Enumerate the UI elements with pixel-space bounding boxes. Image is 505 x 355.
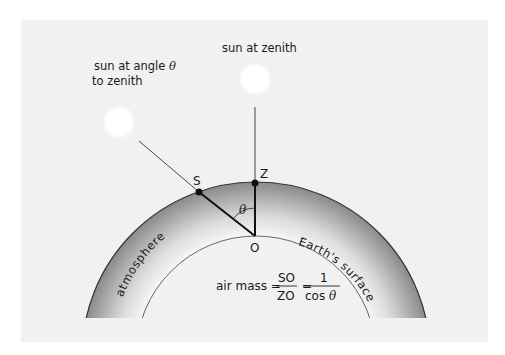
formula-den-zo: ZO bbox=[277, 289, 295, 303]
label-o: O bbox=[250, 241, 259, 255]
air-mass-formula: air mass = SO ZO = 1 cos θ bbox=[216, 271, 340, 303]
label-theta: θ bbox=[239, 203, 247, 217]
formula-prefix: air mass = bbox=[216, 279, 281, 293]
sun-angled-icon bbox=[102, 105, 136, 139]
caption-sun-angle-line1: sun at angle θ bbox=[94, 59, 176, 73]
caption-sun-zenith: sun at zenith bbox=[222, 41, 297, 55]
caption-sun-angle-line2: to zenith bbox=[92, 74, 143, 88]
air-mass-diagram: S Z O θ sun at angle θ to zenith sun at … bbox=[0, 0, 505, 355]
angled-ray-line bbox=[139, 141, 199, 192]
formula-num-so: SO bbox=[278, 271, 295, 285]
label-z: Z bbox=[260, 167, 268, 181]
formula-num-1: 1 bbox=[320, 271, 328, 285]
label-s: S bbox=[193, 174, 201, 188]
point-z-dot bbox=[252, 180, 259, 187]
sun-zenith-icon bbox=[238, 62, 272, 96]
point-s-dot bbox=[196, 189, 203, 196]
formula-den-cos: cos θ bbox=[305, 289, 337, 303]
